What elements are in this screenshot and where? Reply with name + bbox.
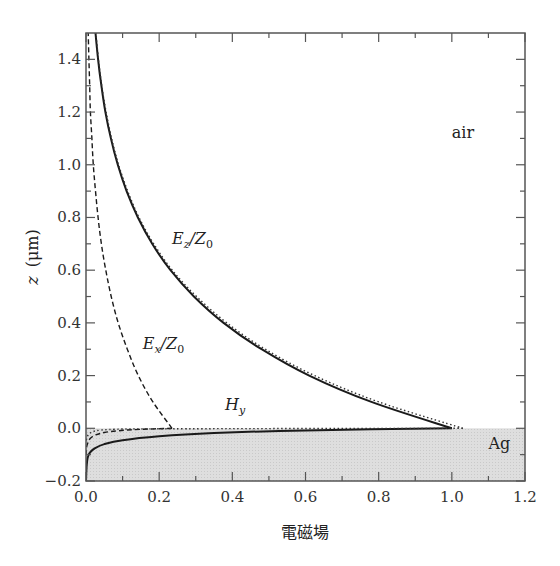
y-axis-label: z (μm)	[23, 229, 42, 286]
y-tick-label: 1.2	[57, 103, 81, 121]
x-tick-label: 0.2	[147, 488, 171, 506]
annotation-ag: Ag	[487, 434, 510, 453]
x-tick-label: 0.0	[74, 488, 98, 506]
y-axis-var: z	[23, 276, 42, 286]
x-axis-label: 電磁場	[281, 523, 329, 542]
material-regions	[86, 33, 525, 481]
y-tick-label: 0.4	[57, 314, 81, 332]
y-tick-labels: −0.20.00.20.40.60.81.01.21.4	[45, 50, 81, 490]
y-tick-label: 0.8	[57, 208, 81, 226]
chart: 0.00.20.40.60.81.01.2 −0.20.00.20.40.60.…	[0, 0, 560, 566]
x-tick-label: 1.2	[513, 488, 537, 506]
y-tick-label: 0.6	[57, 261, 81, 279]
annotation-air: air	[452, 123, 475, 142]
y-axis-unit: (μm)	[23, 229, 42, 267]
y-tick-label: 1.4	[57, 50, 81, 68]
y-tick-label: 1.0	[57, 156, 81, 174]
x-tick-label: 0.4	[220, 488, 244, 506]
x-tick-label: 1.0	[440, 488, 464, 506]
x-tick-label: 0.6	[294, 488, 318, 506]
region-air	[86, 33, 525, 428]
y-tick-label: 0.2	[57, 367, 81, 385]
y-tick-label: −0.2	[45, 472, 81, 490]
y-tick-label: 0.0	[57, 419, 81, 437]
x-tick-labels: 0.00.20.40.60.81.01.2	[74, 488, 537, 506]
x-tick-label: 0.8	[367, 488, 391, 506]
